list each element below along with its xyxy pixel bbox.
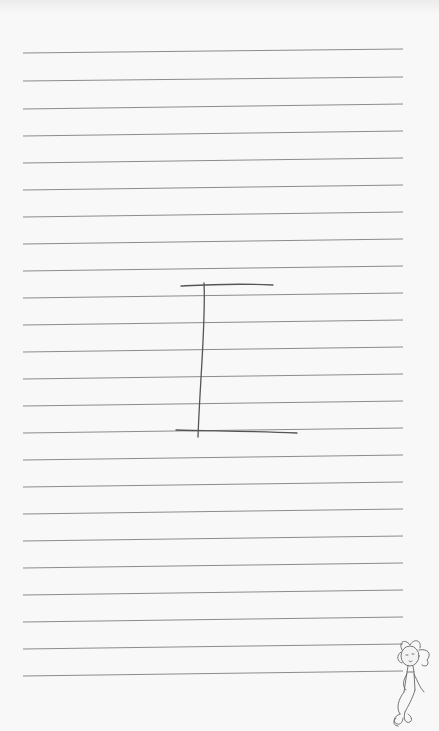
lined-notebook-page — [0, 0, 439, 731]
cartoon-girl-icon — [0, 0, 439, 731]
